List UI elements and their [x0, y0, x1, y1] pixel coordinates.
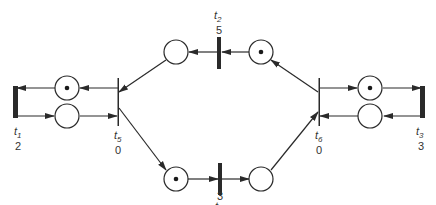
token-left-top: [65, 86, 70, 91]
label-t5: t5: [114, 129, 122, 144]
value-t3: 3: [418, 140, 424, 152]
label-t2: t2: [214, 9, 222, 24]
arc-t5-to-bottom-left: [119, 108, 166, 170]
transition-t6: [319, 78, 321, 126]
transition-t2: [217, 37, 221, 69]
place-left-bottom: [55, 104, 79, 128]
place-right-bottom: [358, 104, 382, 128]
transition-t3: [420, 86, 425, 118]
label-t3: t3: [416, 125, 424, 140]
value-t2: 5: [216, 24, 222, 36]
label-t1: t1: [14, 125, 22, 140]
petri-net-diagram: t1 2 t2 5 t3 3 t4 3 t5 0 t6 0: [0, 0, 436, 205]
token-bottom-left: [174, 177, 179, 182]
token-right-top: [368, 86, 373, 91]
value-t4: 3: [217, 190, 223, 202]
place-top-left: [164, 40, 188, 64]
arc-top-left-to-t5: [119, 60, 166, 92]
arc-t6-to-top-right: [271, 60, 318, 92]
label-t6: t6: [315, 129, 323, 144]
transition-t5: [118, 78, 120, 126]
transition-t1: [13, 86, 18, 118]
value-t1: 2: [15, 140, 21, 152]
value-t6: 0: [316, 144, 322, 156]
place-bottom-right: [249, 167, 273, 191]
value-t5: 0: [115, 144, 121, 156]
arc-bottom-right-to-t6: [271, 112, 318, 170]
token-top-right: [259, 50, 264, 55]
